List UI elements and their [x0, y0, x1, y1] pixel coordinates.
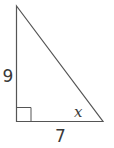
horizontal-leg-label: 7 [55, 126, 66, 146]
triangle-diagram: 9 7 x [0, 0, 114, 148]
vertical-leg-label: 9 [3, 66, 14, 86]
right-angle-marker [17, 108, 32, 122]
angle-label: x [74, 103, 83, 121]
right-triangle [17, 6, 104, 122]
